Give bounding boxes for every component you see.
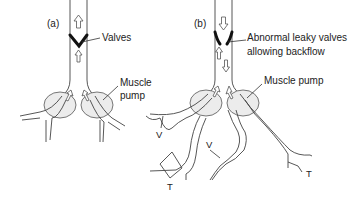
panel-a-vein-left-wall [62,0,70,96]
panel-a-arrow-up-icon-lower [75,50,82,62]
panel-b-tributary-left [160,152,182,178]
panel-b-v-marker-left: V [156,129,163,140]
panel-b-t-marker-right: T [306,168,312,179]
panel-a-label: (a) [47,18,59,29]
panel-b-arrow-down-icon-lower [223,60,230,72]
panel-b-vein-right-wall [232,0,240,94]
panel-b-label: (b) [194,18,206,29]
panel-a-arrow-up-icon [74,15,83,28]
panel-b-v-marker-right: V [206,139,213,150]
panel-b-tributary-right [288,162,302,172]
venous-valve-diagram: (a) Valves Muscle pump (b) [0,0,361,203]
panel-a-valve-icon [70,35,87,46]
panel-b-arrow-up-icon [216,47,223,59]
panel-b-branch-mid-down [210,110,246,180]
panel-b-leaky-valve-left-icon [215,32,220,44]
panel-b-valve-label-line1: Abnormal leaky valves [247,32,347,43]
panel-b-t-marker-left: T [167,181,173,192]
panel-a-vein-right-wall [87,0,95,96]
panel-b-branch-left-down [150,116,206,180]
panel-b-v-leader-right [210,150,220,158]
panel-b-arrow-down-icon [219,17,228,30]
panel-a-muscle-label-line2: pump [120,90,145,101]
panel-b: (b) V V T T Abnormal leaky valves [146,0,347,192]
panel-b-muscle-label: Muscle pump [264,75,324,86]
panel-a-valve-label: Valves [102,32,131,43]
panel-b-muscle-left-icon [190,90,222,116]
panel-b-valve-label-line2: allowing backflow [247,46,326,57]
panel-a: (a) Valves Muscle pump [20,0,152,142]
panel-b-vein-left-wall [208,0,215,94]
panel-a-muscle-label-line1: Muscle [120,77,152,88]
panel-a-muscle-left-icon [44,92,76,118]
